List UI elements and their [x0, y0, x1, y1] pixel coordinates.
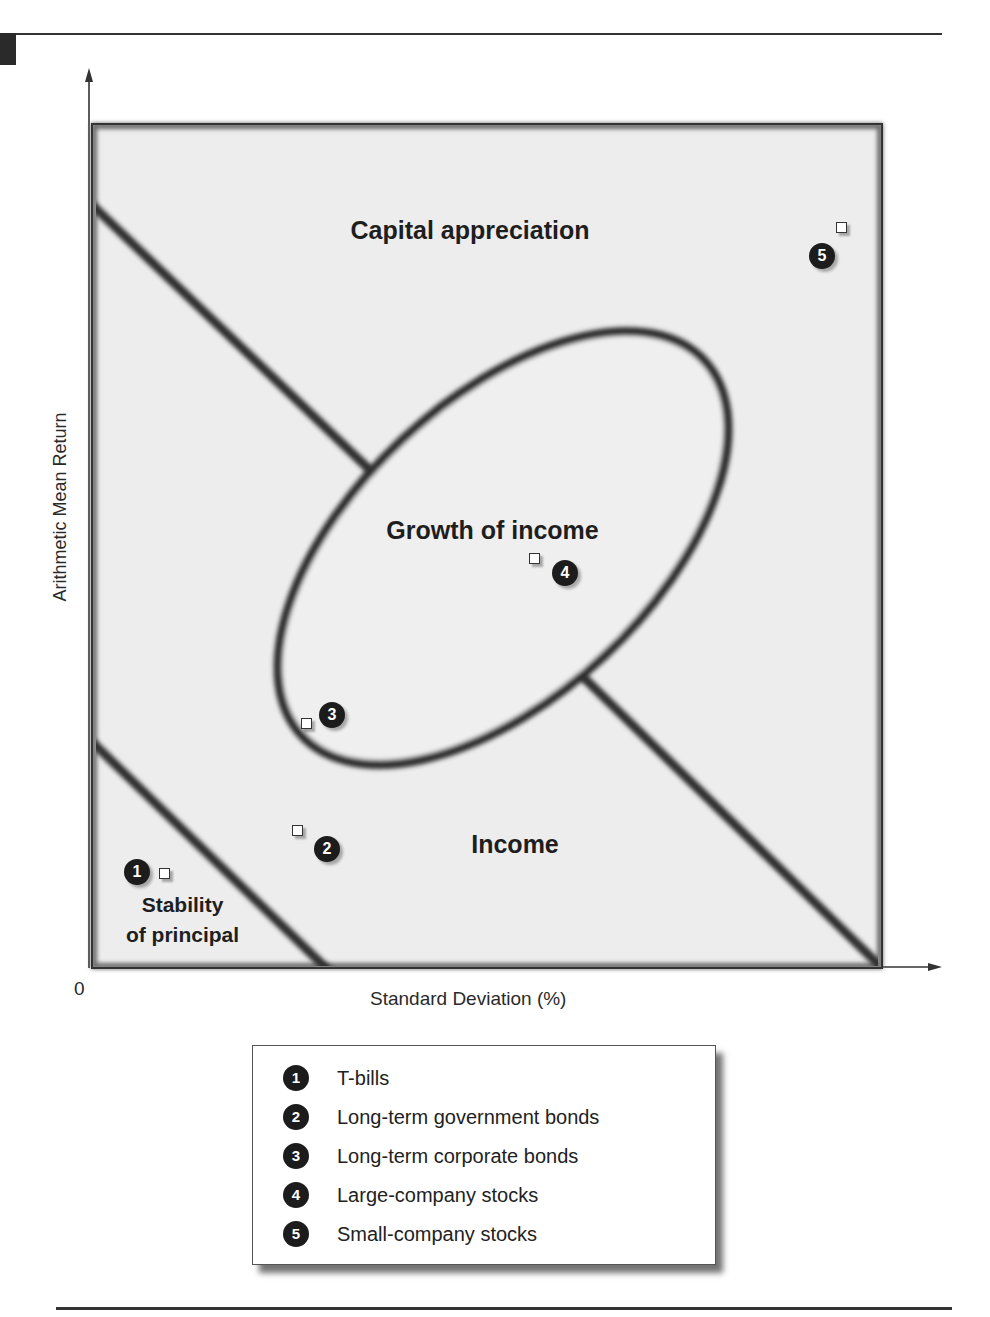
legend-label-4: Large-company stocks — [337, 1184, 538, 1207]
data-point-badge-5: 5 — [809, 243, 835, 269]
bottom-rule — [56, 1307, 952, 1310]
legend-badge-4: 4 — [283, 1182, 309, 1208]
legend-item-3: 3 Long-term corporate bonds — [283, 1141, 578, 1171]
legend-badge-3: 3 — [283, 1143, 309, 1169]
y-axis-label: Arithmetic Mean Return — [50, 412, 71, 601]
legend-item-2: 2 Long-term government bonds — [283, 1102, 599, 1132]
legend-item-5: 5 Small-company stocks — [283, 1219, 537, 1249]
legend-item-4: 4 Large-company stocks — [283, 1180, 538, 1210]
data-point-badge-3: 3 — [319, 702, 345, 728]
legend-label-5: Small-company stocks — [337, 1223, 537, 1246]
data-point-marker-2 — [292, 825, 303, 836]
x-axis-label: Standard Deviation (%) — [370, 988, 566, 1010]
data-point-marker-1 — [159, 868, 170, 879]
legend-badge-5: 5 — [283, 1221, 309, 1247]
legend-label-3: Long-term corporate bonds — [337, 1145, 578, 1168]
origin-label: 0 — [74, 978, 85, 1000]
legend-label-1: T-bills — [337, 1067, 389, 1090]
stability-line-1: Stability — [110, 890, 255, 920]
legend-badge-2: 2 — [283, 1104, 309, 1130]
legend-item-1: 1 T-bills — [283, 1063, 389, 1093]
zone-label-growth-of-income: Growth of income — [350, 516, 635, 545]
zone-label-stability-of-principal: Stability of principal — [110, 890, 255, 950]
data-point-marker-3 — [301, 718, 312, 729]
zone-label-capital-appreciation: Capital appreciation — [300, 216, 640, 245]
stability-line-2: of principal — [110, 920, 255, 950]
legend: 1 T-bills 2 Long-term government bonds 3… — [252, 1045, 716, 1265]
data-point-marker-5 — [836, 222, 847, 233]
legend-label-2: Long-term government bonds — [337, 1106, 599, 1129]
zone-label-income: Income — [440, 830, 590, 859]
data-point-badge-1: 1 — [124, 859, 150, 885]
legend-badge-1: 1 — [283, 1065, 309, 1091]
data-point-marker-4 — [529, 553, 540, 564]
data-point-badge-2: 2 — [314, 836, 340, 862]
data-point-badge-4: 4 — [552, 560, 578, 586]
